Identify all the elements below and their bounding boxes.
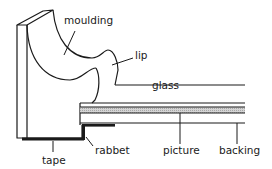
label-picture: picture <box>163 145 200 156</box>
layer-stack <box>80 85 245 125</box>
label-lip: lip <box>135 50 148 61</box>
label-moulding: moulding <box>64 15 113 26</box>
moulding-shape <box>17 10 118 138</box>
label-backing: backing <box>219 145 260 156</box>
label-rabbet: rabbet <box>95 145 130 156</box>
tape-shape <box>22 124 115 141</box>
label-tape: tape <box>42 155 66 166</box>
label-glass: glass <box>152 80 179 91</box>
frame-cross-section-diagram: moulding lip glass tape rabbet picture b… <box>0 0 272 169</box>
